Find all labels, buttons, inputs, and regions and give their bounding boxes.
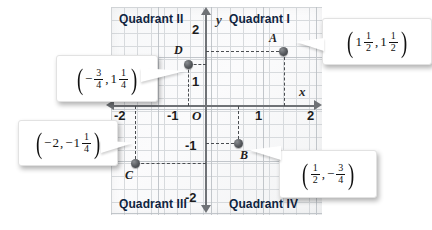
numerator: 1 — [311, 163, 320, 173]
callout-d-y-whole: 1 — [111, 71, 118, 87]
callout-c-y-sign: − — [65, 135, 72, 151]
denominator: 4 — [94, 79, 103, 90]
comma: , — [375, 34, 378, 50]
numerator: 3 — [94, 68, 103, 78]
point-a — [279, 47, 288, 56]
origin-label: O — [192, 108, 201, 124]
numerator: 3 — [336, 163, 345, 173]
quadrant-3-label: Quadrant III — [119, 197, 187, 211]
numerator: 1 — [389, 31, 398, 41]
leader-c-vertical — [135, 106, 136, 164]
leader-c-horizontal — [136, 163, 206, 164]
quadrant-2-label: Quadrant II — [119, 12, 183, 26]
y-tick-2: 2 — [192, 22, 199, 37]
denominator: 2 — [364, 42, 373, 53]
x-axis-line — [114, 105, 316, 107]
y-axis-arrow-down-icon — [201, 205, 211, 213]
y-axis-arrow-up-icon — [201, 7, 211, 15]
y-tick-1: 1 — [192, 74, 199, 89]
open-paren: ( — [302, 162, 308, 186]
quadrant-4-label: Quadrant IV — [229, 197, 298, 211]
close-paren: ) — [348, 162, 354, 186]
denominator: 4 — [82, 143, 91, 154]
callout-d-x-sign: − — [85, 71, 92, 87]
denominator: 4 — [119, 79, 128, 90]
callout-d-tail — [141, 68, 185, 82]
callout-c-x-integer: 2 — [52, 135, 59, 151]
callout-d-y-fraction: 1 4 — [119, 68, 128, 90]
callout-b-text: ( 1 2 , − 3 4 ) — [300, 162, 357, 186]
point-a-label: A — [269, 31, 277, 46]
callout-b-x-fraction: 1 2 — [311, 163, 320, 185]
point-c — [131, 159, 140, 168]
y-tick-minus1: -1 — [185, 138, 197, 153]
numerator: 1 — [82, 132, 91, 142]
callout-a-y-fraction: 1 2 — [389, 31, 398, 53]
callout-b-tail — [249, 146, 281, 160]
denominator: 2 — [311, 174, 320, 185]
leader-a-horizontal — [206, 51, 284, 52]
point-b — [234, 139, 243, 148]
callout-b-y-fraction: 3 4 — [336, 163, 345, 185]
callout-a-x-fraction: 1 2 — [364, 31, 373, 53]
callout-a-tail — [296, 38, 324, 51]
point-d-label: D — [174, 43, 183, 58]
denominator: 4 — [336, 174, 345, 185]
callout-a-x-whole: 1 — [355, 34, 362, 50]
callout-d-text: ( − 3 4 , 1 1 4 ) — [75, 67, 139, 91]
denominator: 2 — [389, 42, 398, 53]
numerator: 1 — [119, 68, 128, 78]
open-paren: ( — [347, 30, 353, 54]
open-paren: ( — [36, 131, 42, 155]
callout-b-y-sign: − — [327, 166, 334, 182]
point-d — [184, 60, 193, 69]
comma: , — [105, 71, 108, 87]
x-tick-minus1: -1 — [167, 108, 179, 123]
comma: , — [60, 135, 63, 151]
close-paren: ) — [94, 131, 100, 155]
callout-a-y-whole: 1 — [380, 34, 387, 50]
close-paren: ) — [401, 30, 407, 54]
leader-a-vertical — [284, 52, 285, 106]
leader-d-vertical — [188, 65, 189, 106]
callout-c-y-fraction: 1 4 — [82, 132, 91, 154]
callout-b: ( 1 2 , − 3 4 ) — [279, 150, 377, 198]
x-axis-label: x — [299, 84, 306, 100]
callout-c-tail — [101, 140, 133, 153]
callout-a-text: ( 1 1 2 , 1 1 2 ) — [345, 30, 408, 54]
y-axis-line — [205, 14, 207, 210]
callout-d-x-fraction: 3 4 — [94, 68, 103, 90]
comma: , — [322, 166, 325, 182]
numerator: 1 — [364, 31, 373, 41]
x-axis-arrow-right-icon — [314, 100, 322, 110]
quadrant-1-label: Quadrant I — [229, 12, 290, 26]
close-paren: ) — [131, 67, 137, 91]
x-tick-2: 2 — [307, 108, 314, 123]
callout-c-y-whole: 1 — [73, 135, 80, 151]
callout-a: ( 1 1 2 , 1 1 2 ) — [322, 18, 432, 65]
point-b-label: B — [240, 148, 248, 163]
point-c-label: C — [125, 168, 133, 183]
callout-c-x-sign: − — [44, 135, 51, 151]
x-tick-1: 1 — [255, 108, 262, 123]
y-axis-label: y — [216, 12, 222, 28]
callout-c-text: ( − 2 , − 1 1 4 ) — [34, 131, 102, 155]
open-paren: ( — [77, 67, 83, 91]
